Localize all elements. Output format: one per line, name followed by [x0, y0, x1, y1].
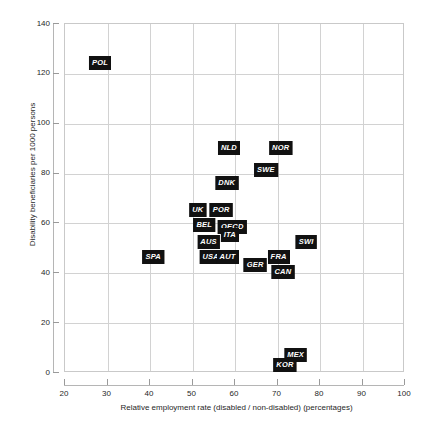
x-tick-label: 40	[134, 389, 164, 398]
gridline-horizontal	[65, 174, 403, 175]
y-tick-mark	[53, 222, 59, 223]
plot-area	[64, 23, 404, 372]
x-axis-line	[64, 385, 404, 386]
x-tick-label: 50	[177, 389, 207, 398]
y-tick-mark	[53, 123, 59, 124]
x-tick-label: 60	[219, 389, 249, 398]
gridline-vertical	[278, 24, 279, 371]
data-point-label-kor: KOR	[273, 358, 296, 372]
data-point-label-nld: NLD	[218, 141, 240, 155]
gridline-vertical	[235, 24, 236, 371]
y-tick-label: 0	[46, 368, 50, 377]
x-tick-mark	[404, 379, 405, 385]
data-point-label-can: CAN	[271, 265, 294, 279]
gridline-vertical	[193, 24, 194, 371]
data-point-label-pol: POL	[89, 56, 111, 70]
data-point-label-bel: BEL	[193, 218, 215, 232]
y-tick-mark	[53, 73, 59, 74]
y-tick-mark	[53, 322, 59, 323]
data-point-label-spa: SPA	[143, 250, 164, 264]
data-point-label-uk: UK	[189, 203, 206, 217]
y-tick-label: 140	[37, 19, 50, 28]
data-point-label-aut: AUT	[217, 250, 239, 264]
x-tick-label: 20	[49, 389, 79, 398]
y-tick-label: 100	[37, 118, 50, 127]
gridline-vertical	[320, 24, 321, 371]
data-point-label-dnk: DNK	[215, 176, 238, 190]
x-tick-mark	[64, 379, 65, 385]
y-tick-label: 120	[37, 68, 50, 77]
y-axis-line	[53, 23, 54, 372]
gridline-vertical	[150, 24, 151, 371]
y-tick-mark	[53, 372, 59, 373]
data-point-label-swe: SWE	[254, 163, 278, 177]
gridline-vertical	[363, 24, 364, 371]
data-point-label-ger: GER	[244, 258, 267, 272]
gridline-horizontal	[65, 124, 403, 125]
x-tick-mark	[277, 379, 278, 385]
y-tick-label: 60	[41, 218, 50, 227]
x-tick-label: 70	[262, 389, 292, 398]
y-tick-mark	[53, 272, 59, 273]
scatter-chart: 0204060801001201402030405060708090100 PO…	[0, 0, 423, 438]
x-tick-mark	[234, 379, 235, 385]
x-tick-label: 100	[389, 389, 419, 398]
x-tick-label: 80	[304, 389, 334, 398]
x-tick-mark	[362, 379, 363, 385]
x-axis-title: Relative employment rate (disabled / non…	[64, 403, 409, 412]
data-point-label-ita: ITA	[221, 228, 239, 242]
gridline-horizontal	[65, 74, 403, 75]
data-point-label-nor: NOR	[269, 141, 292, 155]
y-axis-title: Disability beneficiaries per 1000 person…	[28, 60, 37, 290]
x-tick-mark	[319, 379, 320, 385]
x-tick-mark	[149, 379, 150, 385]
y-tick-label: 20	[41, 318, 50, 327]
y-tick-label: 80	[41, 168, 50, 177]
data-point-label-fra: FRA	[268, 250, 290, 264]
x-tick-mark	[192, 379, 193, 385]
data-point-label-por: POR	[210, 203, 233, 217]
gridline-horizontal	[65, 323, 403, 324]
x-tick-label: 90	[347, 389, 377, 398]
gridline-horizontal	[65, 273, 403, 274]
gridline-vertical	[108, 24, 109, 371]
y-tick-mark	[53, 173, 59, 174]
y-tick-label: 40	[41, 268, 50, 277]
x-tick-mark	[107, 379, 108, 385]
x-tick-label: 30	[92, 389, 122, 398]
data-point-label-swi: SWI	[296, 235, 317, 249]
data-point-label-aus: AUS	[197, 235, 219, 249]
y-tick-mark	[53, 23, 59, 24]
